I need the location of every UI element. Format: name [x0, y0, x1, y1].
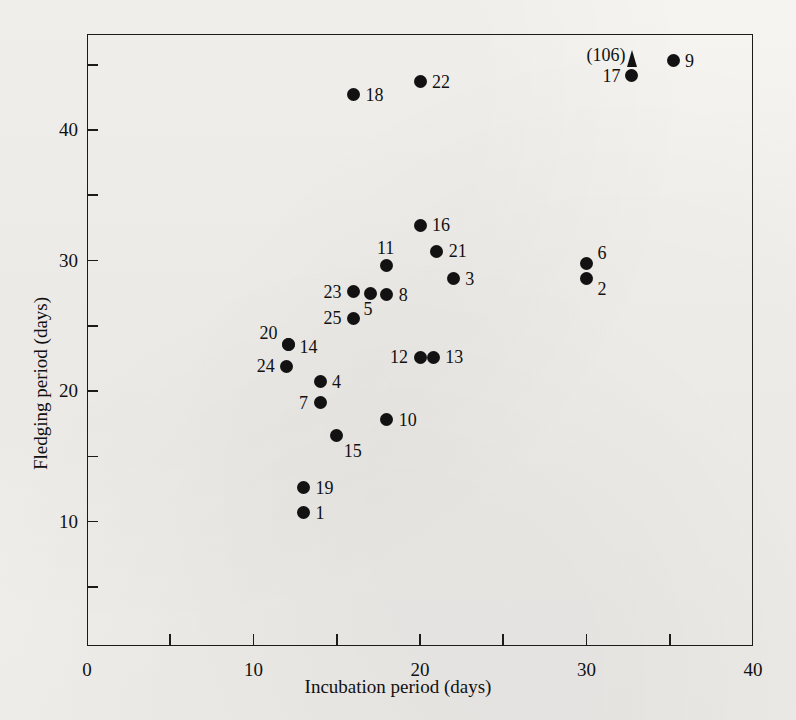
data-point-label-6: 6	[598, 244, 607, 262]
data-point-label-18: 18	[365, 86, 383, 104]
data-point-label-13: 13	[445, 348, 463, 366]
data-point-13[interactable]	[427, 351, 440, 364]
data-point-label-23: 23	[323, 283, 341, 301]
data-point-6[interactable]	[580, 257, 593, 270]
data-point-label-17: 17	[602, 67, 620, 85]
y-tick-30	[87, 260, 98, 262]
data-point-label-12: 12	[390, 348, 408, 366]
data-point-20[interactable]	[282, 338, 295, 351]
y-tick-25	[87, 325, 98, 327]
data-point-label-11: 11	[377, 239, 394, 257]
x-tick-5	[169, 634, 171, 645]
y-axis-title: Fledging period (days)	[30, 297, 52, 470]
data-point-9[interactable]	[667, 54, 680, 67]
data-point-25[interactable]	[347, 312, 360, 325]
y-tick-40	[87, 129, 98, 131]
data-point-1[interactable]	[297, 506, 310, 519]
data-point-label-25: 25	[323, 309, 341, 327]
scatter-plot-figure: 10203040 010203040 123456789101112131415…	[0, 0, 796, 720]
x-tick-15	[336, 634, 338, 645]
y-tick-10	[87, 521, 98, 523]
y-tick-15	[87, 456, 98, 458]
x-axis-title: Incubation period (days)	[0, 676, 796, 698]
data-point-label-19: 19	[315, 479, 333, 497]
data-point-21[interactable]	[430, 245, 443, 258]
data-point-label-5: 5	[364, 300, 373, 318]
data-point-label-3: 3	[465, 270, 474, 288]
data-point-label-14: 14	[299, 338, 317, 356]
data-point-label-7: 7	[299, 394, 308, 412]
y-tick-label-40: 40	[34, 120, 78, 139]
data-point-7[interactable]	[314, 396, 327, 409]
data-point-label-21: 21	[449, 242, 467, 260]
data-point-22[interactable]	[414, 75, 427, 88]
plot-frame	[87, 34, 753, 646]
y-tick-20	[87, 390, 98, 392]
data-point-5[interactable]	[364, 287, 377, 300]
offscale-annotation-label: (106)	[586, 46, 625, 64]
data-point-12[interactable]	[414, 351, 427, 364]
data-point-label-24: 24	[257, 357, 275, 375]
data-point-17[interactable]	[625, 69, 638, 82]
data-point-label-10: 10	[399, 411, 417, 429]
data-point-label-1: 1	[315, 504, 324, 522]
data-point-label-15: 15	[344, 442, 362, 460]
x-tick-30	[586, 634, 588, 645]
y-tick-45	[87, 64, 98, 66]
data-point-16[interactable]	[414, 219, 427, 232]
y-tick-5	[87, 586, 98, 588]
data-point-label-22: 22	[432, 73, 450, 91]
x-tick-35	[669, 634, 671, 645]
data-point-label-16: 16	[432, 216, 450, 234]
y-tick-label-30: 30	[34, 251, 78, 270]
y-tick-35	[87, 194, 98, 196]
y-tick-label-10: 10	[34, 512, 78, 531]
data-point-label-9: 9	[685, 52, 694, 70]
data-point-label-4: 4	[332, 373, 341, 391]
data-point-label-8: 8	[399, 286, 408, 304]
x-tick-10	[253, 634, 255, 645]
offscale-arrow-icon	[627, 50, 637, 67]
data-point-label-20: 20	[259, 324, 277, 342]
x-tick-25	[502, 634, 504, 645]
x-tick-20	[419, 634, 421, 645]
data-point-label-2: 2	[598, 280, 607, 298]
